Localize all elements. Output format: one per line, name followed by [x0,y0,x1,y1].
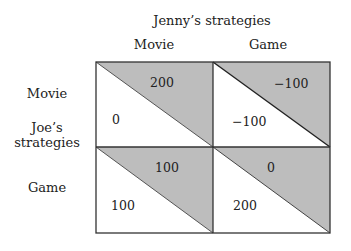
payoff-joe-game-movie: 100 [111,198,135,213]
payoff-joe-game-game: 200 [233,198,257,213]
payoff-jenny-game-movie: 100 [155,160,179,175]
payoff-jenny-movie-movie: 200 [150,75,174,90]
payoff-jenny-movie-game: −100 [274,76,308,91]
payoff-matrix-grid [0,0,351,251]
payoff-joe-movie-game: −100 [232,114,266,129]
payoff-jenny-game-game: 0 [267,160,275,175]
payoff-joe-movie-movie: 0 [112,112,120,127]
